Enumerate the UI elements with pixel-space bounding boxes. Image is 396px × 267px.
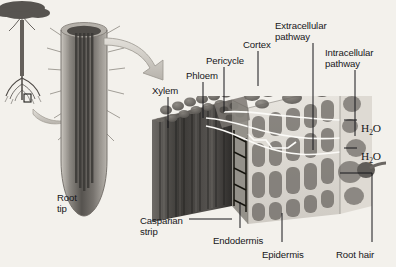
label-xylem: Xylem [152,86,178,97]
label-cortex: Cortex [243,40,271,51]
label-epidermis: Epidermis [262,250,304,261]
root-water-uptake-figure [0,0,396,267]
label-intracellular-pathway: Intracellular pathway [325,48,373,69]
label-water-upper: H2O [361,123,381,139]
label-phloem: Phloem [186,71,218,82]
label-casparian-strip: Casparian strip [140,216,183,237]
label-water-lower: H2O [361,151,381,167]
label-root-tip: Root tip [57,193,77,214]
label-endodermis: Endodermis [213,236,263,247]
label-root-hair: Root hair [336,250,374,261]
tree-trunk [20,20,24,76]
label-pericycle: Pericycle [206,56,244,67]
label-extracellular-pathway: Extracellular pathway [275,21,327,42]
